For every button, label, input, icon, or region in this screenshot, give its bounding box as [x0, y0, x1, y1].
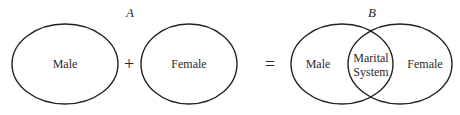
plus-operator: +: [124, 54, 134, 74]
panel-b-label: B: [368, 5, 376, 20]
female-label-a: Female: [171, 57, 206, 71]
female-label-b: Female: [407, 57, 442, 71]
diagram-canvas: A Male + Female = B Male Marital System …: [0, 0, 460, 115]
male-label-b: Male: [306, 57, 331, 71]
male-label-a: Male: [53, 57, 78, 71]
marital-system-diagram: A Male + Female = B Male Marital System …: [0, 0, 460, 115]
overlap-label-line1: Marital: [353, 51, 389, 65]
overlap-label-line2: System: [353, 65, 389, 79]
panel-a-label: A: [125, 5, 134, 20]
equals-operator: =: [265, 54, 275, 74]
